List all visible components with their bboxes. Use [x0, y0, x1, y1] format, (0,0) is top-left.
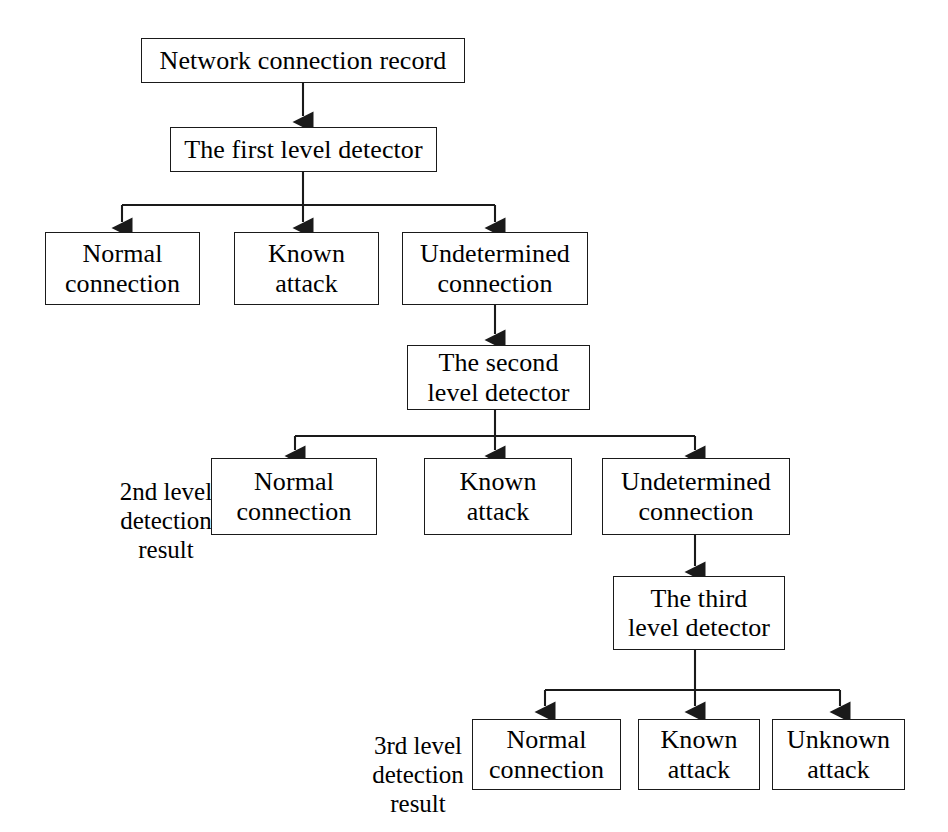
node-label: Undetermined connection	[416, 239, 574, 297]
node-label: Normal connection	[485, 725, 608, 783]
side-label-text: 2nd level detection result	[120, 478, 212, 563]
node-label: Known attack	[656, 725, 741, 783]
edge-detector1-branch	[122, 172, 495, 222]
node-l1-known-attack[interactable]: Known attack	[234, 232, 379, 305]
node-l1-normal-connection[interactable]: Normal connection	[45, 232, 200, 305]
node-label: The third level detector	[624, 584, 774, 642]
node-label: Known attack	[455, 467, 540, 525]
edge-detector2-branch	[295, 410, 695, 450]
flowchart-canvas: Network connection record The first leve…	[0, 0, 948, 832]
node-l2-undetermined-connection[interactable]: Undetermined connection	[602, 458, 790, 535]
side-label-text: 3rd level detection result	[372, 732, 464, 817]
node-network-connection-record[interactable]: Network connection record	[141, 38, 465, 83]
node-l3-normal-connection[interactable]: Normal connection	[472, 719, 621, 790]
edge-detector3-branch	[545, 650, 840, 706]
node-second-level-detector[interactable]: The second level detector	[407, 345, 590, 410]
node-label: The first level detector	[180, 135, 426, 164]
node-l3-unknown-attack[interactable]: Unknown attack	[772, 719, 905, 790]
node-label: Undetermined connection	[617, 467, 775, 525]
node-label: The second level detector	[423, 348, 573, 406]
node-label: Network connection record	[156, 46, 451, 75]
node-third-level-detector[interactable]: The third level detector	[613, 576, 785, 650]
node-label: Known attack	[264, 239, 349, 297]
node-label: Normal connection	[61, 239, 184, 297]
node-label: Normal connection	[232, 467, 355, 525]
node-first-level-detector[interactable]: The first level detector	[170, 127, 437, 172]
label-3rd-level-detection-result: 3rd level detection result	[358, 702, 478, 818]
label-2nd-level-detection-result: 2nd level detection result	[107, 448, 225, 564]
node-l3-known-attack[interactable]: Known attack	[638, 719, 760, 790]
node-label: Unknown attack	[783, 725, 894, 783]
node-l2-normal-connection[interactable]: Normal connection	[211, 458, 377, 535]
node-l1-undetermined-connection[interactable]: Undetermined connection	[402, 232, 588, 305]
node-l2-known-attack[interactable]: Known attack	[424, 458, 572, 535]
